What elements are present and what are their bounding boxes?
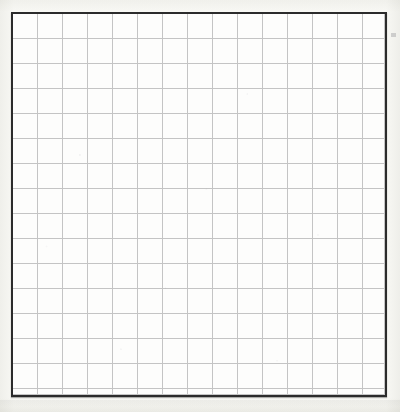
page-sheet: Blank Grid Sheet <box>0 0 400 412</box>
stray-edge-mark <box>391 33 396 37</box>
grid-table[interactable] <box>11 12 387 397</box>
grid-lines <box>13 14 385 395</box>
scan-shadow-band <box>0 400 400 407</box>
